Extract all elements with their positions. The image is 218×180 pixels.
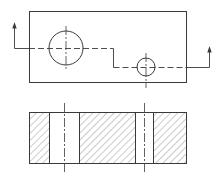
hatched-block-right bbox=[154, 113, 187, 164]
hatched-block-middle bbox=[80, 113, 136, 164]
drawing-canvas bbox=[0, 0, 218, 180]
left-arrow-icon bbox=[12, 22, 16, 29]
hatched-block-left bbox=[30, 113, 50, 164]
right-arrow-icon bbox=[207, 46, 211, 53]
section-cutting-line bbox=[15, 27, 210, 68]
top-view-outline bbox=[30, 12, 187, 83]
section-view bbox=[30, 103, 187, 172]
top-view bbox=[12, 12, 211, 89]
